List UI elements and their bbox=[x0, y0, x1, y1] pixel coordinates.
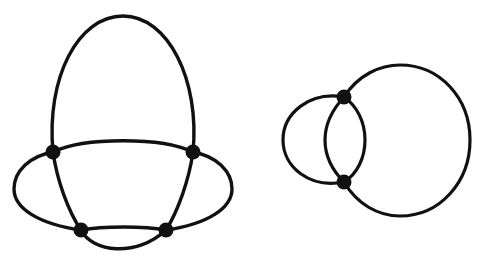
right-vertex-upper-intersection bbox=[337, 90, 352, 105]
left-edge-bottom-straight bbox=[81, 227, 166, 230]
figure-root bbox=[0, 0, 493, 277]
left-vertex-bottom-right bbox=[159, 223, 174, 238]
left-edge-outer-ellipse-left bbox=[14, 152, 81, 230]
left-edge-inner-chord-right bbox=[166, 152, 193, 230]
right-edge-large-circle-right-arc bbox=[344, 65, 470, 216]
graph-diagram-canvas bbox=[0, 0, 493, 277]
right-edge-large-circle-left-arc bbox=[325, 97, 344, 182]
left-edge-tall-arch bbox=[52, 16, 194, 152]
left-edge-outer-ellipse-right bbox=[166, 152, 232, 230]
right-edge-small-circle-right-arc bbox=[344, 97, 365, 182]
left-edge-inner-chord-left bbox=[53, 152, 81, 230]
left-edge-shallow-arc-top bbox=[53, 141, 193, 152]
left-vertex-bottom-left bbox=[74, 223, 89, 238]
right-vertex-lower-intersection bbox=[337, 175, 352, 190]
left-edge-bottom-dip bbox=[81, 230, 166, 249]
right-graph bbox=[283, 65, 470, 216]
left-graph bbox=[14, 16, 232, 249]
left-vertex-top-left bbox=[46, 145, 61, 160]
left-vertex-top-right bbox=[186, 145, 201, 160]
